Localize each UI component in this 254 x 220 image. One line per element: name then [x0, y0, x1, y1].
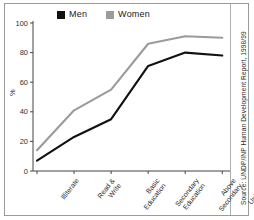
x-category-label: BasicEducation: [136, 177, 168, 211]
x-category-label: SecondaryEducation: [174, 177, 207, 213]
x-category-label-line: University: [247, 177, 254, 206]
x-axis-labels: IlliterateRead &WriteBasicEducationSecon…: [0, 0, 254, 220]
chart-figure: Men Women 020406080100 % IlliterateRead …: [0, 0, 254, 220]
x-category-label: University: [247, 177, 254, 206]
x-category-label: Read &Write: [96, 177, 123, 205]
x-category-label-line: Illiterate: [59, 177, 80, 201]
x-category-label: Illiterate: [59, 177, 80, 201]
source-note: Source: UNDP/INP Human Development Repor…: [240, 31, 247, 205]
